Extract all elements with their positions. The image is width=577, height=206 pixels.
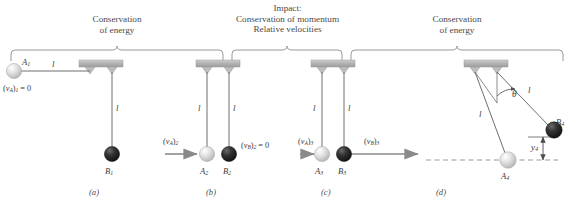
header-left-line1: Conservation [67,14,167,25]
label-velocity-a3-subin: A [304,140,307,146]
caption-panel-d: (d) [436,188,446,197]
label-ball-b2-sub: 2 [228,170,231,176]
label-velocity-b3-subout: 3 [377,140,380,146]
brace-right [351,46,563,61]
label-ball-a3: A3 [315,167,323,177]
caption-panel-a: (a) [89,188,99,197]
caption-panel-b: (b) [206,188,216,197]
brace-center [232,46,342,61]
caption-panel-d-text: (d) [436,187,446,197]
label-velocity-b2-value: = 0 [258,141,269,150]
label-ball-b3: B3 [338,167,346,177]
label-cord-c-left: l [313,104,316,113]
label-ball-b4: B4 [556,118,564,128]
label-velocity-a3: (vA)3 [298,138,313,147]
label-velocity-b3-subin: B [370,140,373,146]
panel-d-group [426,60,562,168]
label-ball-a2-sub: 2 [205,170,208,176]
label-velocity-a1-value: = 0 [20,84,31,93]
header-center: Impact: Conservation of momentum Relativ… [215,3,360,35]
label-ball-b1-sub: 1 [110,170,113,176]
label-ball-a2: A2 [200,167,208,177]
label-ball-b3-sub: 3 [343,170,346,176]
label-velocity-a3-subout: 3 [311,140,314,146]
label-cord-d-right: l [528,86,531,95]
header-center-line2: Conservation of momentum [215,14,360,25]
label-height-y4-sub: 4 [535,146,538,152]
label-cord-a-vertical: l [116,104,119,113]
header-center-line1: Impact: [215,3,360,14]
label-ball-a3-sub: 3 [320,170,323,176]
ball-a2-light [199,146,214,161]
label-ball-a1-sub: 1 [27,61,30,67]
label-angle-theta: θ [512,90,517,99]
label-cord-d-left: l [479,110,482,119]
panel-c-group [300,60,418,162]
label-cord-b-left: l [198,104,201,113]
ball-a1-light [6,63,21,78]
header-right: Conservation of energy [407,14,507,35]
impact-pendulum-figure: Conservation of energy Impact: Conservat… [0,0,577,206]
label-cord-c-right: l [348,104,351,113]
label-velocity-a2-subout: 2 [176,140,179,146]
header-center-line3: Relative velocities [215,24,360,35]
label-ball-b4-sub: 4 [561,121,564,127]
label-cord-b-right: l [233,104,236,113]
label-velocity-a1: (vA)1 = 0 [3,85,31,94]
ball-b3-dark [336,146,351,161]
ball-b2-dark [221,146,236,161]
label-ball-b1: B1 [105,167,113,177]
ball-b1-dark [104,146,119,161]
caption-panel-c: (c) [321,188,331,197]
support-bar-c [311,60,355,67]
brace-left [11,46,223,61]
label-ball-b2: B2 [223,167,231,177]
label-velocity-b2-subin: B [247,144,250,150]
header-right-line2: of energy [407,25,507,36]
cord-d-right [497,72,549,126]
caption-panel-a-text: (a) [89,187,99,197]
support-bar-a [79,60,123,67]
label-velocity-b2-subout: 2 [254,144,257,150]
header-left: Conservation of energy [67,14,167,35]
label-ball-a4-sub: 4 [506,175,509,181]
ball-a4-light [500,152,516,168]
label-velocity-b2: (vB)2 = 0 [241,142,269,151]
caption-panel-b-text: (b) [206,187,216,197]
label-velocity-a2-subin: A [169,140,172,146]
panel-a-group [6,60,123,162]
header-right-line1: Conservation [407,14,507,25]
support-bar-d [464,60,508,67]
label-ball-a1: A1 [22,58,30,68]
label-velocity-b3: (vB)3 [364,138,379,147]
ball-a3-light [314,146,329,161]
label-cord-a-horizontal: l [52,60,55,69]
label-velocity-a1-subout: 1 [16,87,19,93]
label-velocity-a2: (vA)2 [163,138,178,147]
support-bar-b [196,60,240,67]
caption-panel-c-text: (c) [321,187,331,197]
vertical-reference-d [475,72,497,103]
label-height-y4: y4 [531,143,538,152]
header-left-line2: of energy [67,25,167,36]
label-ball-a4: A4 [501,172,509,182]
